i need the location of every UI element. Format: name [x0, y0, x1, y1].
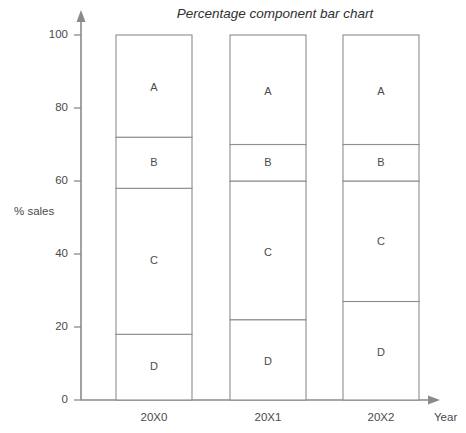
bar-segment-label-20X1-A: A — [264, 85, 272, 97]
x-axis-title: Year — [434, 411, 457, 423]
x-category-label-20X2: 20X2 — [368, 411, 395, 423]
y-tick-label-0: 0 — [62, 393, 68, 405]
bar-group-20X1: D C B A — [230, 35, 306, 400]
y-tick-label-60: 60 — [55, 174, 68, 186]
y-tick-label-20: 20 — [55, 320, 68, 332]
bar-segment-label-20X0-A: A — [150, 81, 158, 93]
bar-segment-label-20X2-A: A — [377, 85, 385, 97]
bar-segment-label-20X0-B: B — [150, 156, 157, 168]
x-category-label-20X1: 20X1 — [255, 411, 282, 423]
bar-segment-label-20X2-B: B — [377, 156, 384, 168]
chart-title: Percentage component bar chart — [177, 6, 375, 21]
y-tick-label-100: 100 — [49, 28, 68, 40]
y-tick-label-40: 40 — [55, 247, 68, 259]
x-axis-arrowhead — [428, 396, 440, 405]
bar-segment-label-20X2-D: D — [377, 346, 385, 358]
bar-segment-label-20X2-C: C — [377, 235, 385, 247]
y-axis-arrowhead — [77, 10, 86, 22]
bar-segment-label-20X0-D: D — [150, 360, 158, 372]
bar-segment-label-20X1-D: D — [264, 355, 272, 367]
bar-segment-label-20X0-C: C — [150, 254, 158, 266]
y-axis-title: % sales — [14, 205, 55, 217]
bar-group-20X2: D C B A — [343, 35, 419, 400]
percentage-component-bar-chart: Percentage component bar chart 0 20 40 6… — [0, 0, 466, 433]
bar-segment-label-20X1-C: C — [264, 246, 272, 258]
chart-canvas: Percentage component bar chart 0 20 40 6… — [0, 0, 466, 433]
bar-segment-label-20X1-B: B — [264, 156, 271, 168]
bar-group-20X0: D C B A — [116, 35, 192, 400]
x-category-label-20X0: 20X0 — [141, 411, 168, 423]
y-tick-label-80: 80 — [55, 101, 68, 113]
